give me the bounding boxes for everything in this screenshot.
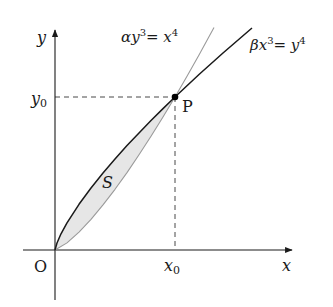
x0-label: x0 xyxy=(164,256,180,277)
x-axis-label: x xyxy=(282,256,291,275)
region-s-fill xyxy=(55,97,175,250)
y0-label: y0 xyxy=(30,89,47,110)
y-axis-label: y xyxy=(36,28,47,47)
region-s-label: S xyxy=(102,173,113,192)
point-p-marker xyxy=(172,94,179,101)
area-between-curves-diagram: y x O y0 x0 P S αy3= x4 βx3= y4 xyxy=(0,0,333,307)
origin-label: O xyxy=(34,257,47,276)
point-p-label: P xyxy=(182,97,193,116)
alpha-curve-equation: αy3= x4 xyxy=(121,27,178,46)
beta-curve-equation: βx3= y4 xyxy=(249,35,306,54)
